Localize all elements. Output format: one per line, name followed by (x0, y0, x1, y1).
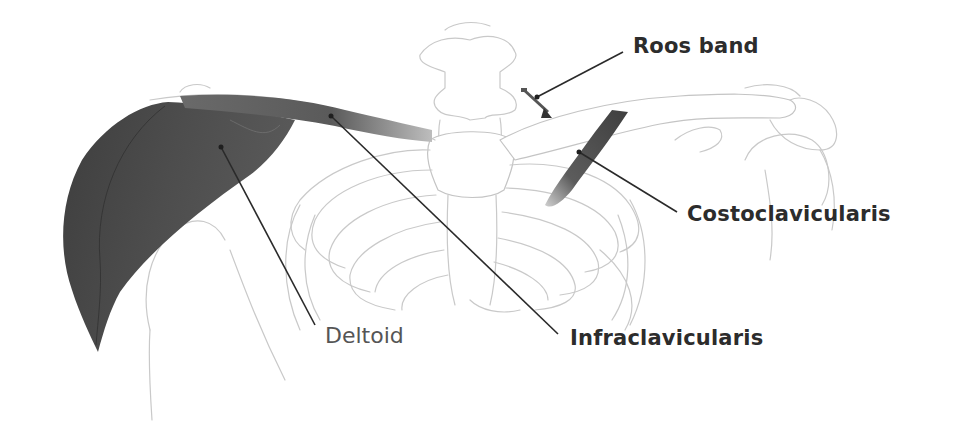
ribs-left (286, 150, 448, 330)
label-deltoid: Deltoid (325, 325, 404, 347)
label-infraclavicularis: Infraclavicularis (570, 328, 763, 349)
anatomy-diagram: Roos band Costoclavicularis Infraclavicu… (0, 0, 960, 426)
leader-deltoid (221, 147, 315, 325)
roos-band (521, 88, 552, 118)
deltoid-muscle (63, 102, 295, 352)
leader-roos-band (537, 52, 623, 97)
label-costoclavicularis: Costoclavicularis (687, 204, 891, 225)
label-roos-band: Roos band (633, 36, 759, 57)
